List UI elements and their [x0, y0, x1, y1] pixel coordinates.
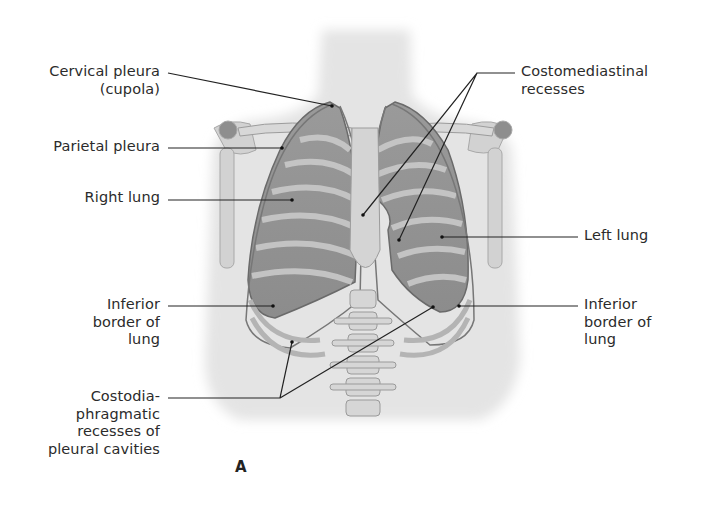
label-costomediastinal-recesses: Costomediastinal recesses	[521, 63, 648, 98]
sternum	[350, 128, 380, 268]
label-costodiaphragmatic-recesses: Costodia- phragmatic recesses of pleural…	[48, 388, 160, 458]
label-left-lung-line1: Left lung	[584, 227, 648, 245]
label-left-lung: Left lung	[584, 227, 648, 245]
label-inferior-border-right-line3: lung	[93, 331, 160, 349]
label-costomediastinal-line1: Costomediastinal	[521, 63, 648, 81]
label-inferior-border-right: Inferior border of lung	[93, 296, 160, 349]
label-costodiaphragmatic-line4: pleural cavities	[48, 441, 160, 459]
label-inferior-border-right-line2: border of	[93, 314, 160, 332]
label-cervical-pleura-line1: Cervical pleura	[49, 63, 160, 81]
label-inferior-border-right-line1: Inferior	[93, 296, 160, 314]
label-cervical-pleura-line2: (cupola)	[49, 81, 160, 99]
label-cervical-pleura: Cervical pleura (cupola)	[49, 63, 160, 98]
label-inferior-border-left: Inferior border of lung	[584, 296, 651, 349]
label-parietal-pleura: Parietal pleura	[53, 138, 160, 156]
label-costodiaphragmatic-line1: Costodia-	[48, 388, 160, 406]
label-inferior-border-left-line1: Inferior	[584, 296, 651, 314]
leader-cervical-pleura	[168, 73, 332, 106]
label-costomediastinal-line2: recesses	[521, 81, 648, 99]
label-costodiaphragmatic-line3: recesses of	[48, 423, 160, 441]
label-inferior-border-left-line3: lung	[584, 331, 651, 349]
label-right-lung-line1: Right lung	[85, 189, 160, 207]
label-parietal-pleura-line1: Parietal pleura	[53, 138, 160, 156]
anatomy-figure: Cervical pleura (cupola) Parietal pleura…	[0, 0, 723, 511]
label-costodiaphragmatic-line2: phragmatic	[48, 406, 160, 424]
panel-letter: A	[235, 458, 247, 476]
label-right-lung: Right lung	[85, 189, 160, 207]
label-inferior-border-left-line2: border of	[584, 314, 651, 332]
